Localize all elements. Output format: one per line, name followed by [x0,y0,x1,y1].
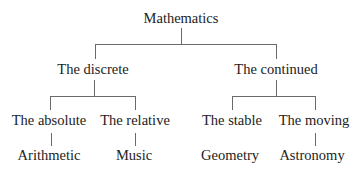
node-geometry: Geometry [201,147,259,163]
node-the-discrete: The discrete [57,61,128,77]
node-the-relative: The relative [100,112,170,128]
connector-continued [276,44,277,59]
connector-level1 [95,44,277,45]
node-the-moving: The moving [279,112,349,128]
node-arithmetic: Arithmetic [18,147,81,163]
node-the-absolute: The absolute [12,112,87,128]
connector-astronomy [315,133,316,146]
connector-relative [135,96,136,110]
node-mathematics: Mathematics [144,10,219,26]
connector-absolute [50,96,51,110]
node-the-stable: The stable [202,112,262,128]
node-astronomy: Astronomy [279,147,344,163]
node-the-continued: The continued [234,61,317,77]
connector-moving [315,96,316,110]
connector-continued-down [276,80,277,96]
connector-discrete [95,44,96,59]
connector-music [135,133,136,146]
connector-stable [232,96,233,110]
connector-level2-left [50,96,136,97]
node-music: Music [116,147,152,163]
connector-level2-right [232,96,316,97]
connector-root [181,28,182,44]
connector-arithmetic [51,133,52,146]
connector-discrete-down [94,80,95,96]
